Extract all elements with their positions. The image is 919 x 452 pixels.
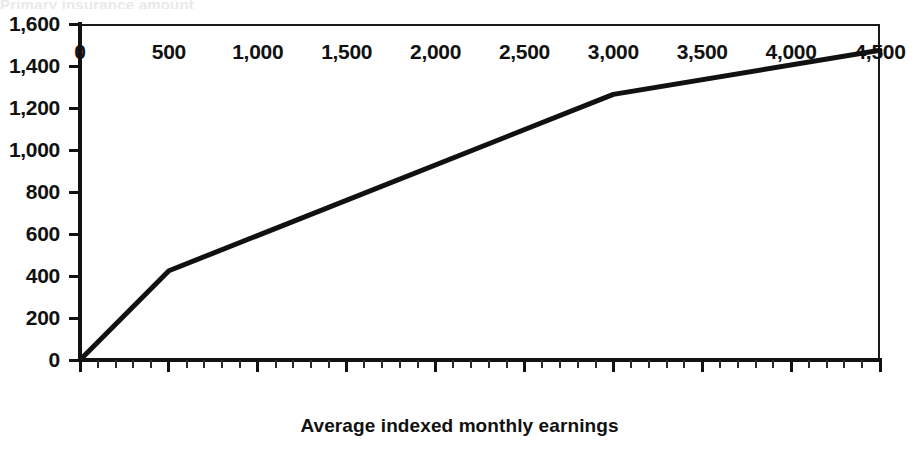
x-tick-minor [808,360,810,368]
x-tick-minor [239,360,241,368]
y-tick: 400 [69,275,80,278]
x-tick-minor [506,360,508,368]
x-tick-minor [132,360,134,368]
x-tick-minor [417,360,419,368]
x-tick-minor [292,360,294,368]
x-tick-minor [541,360,543,368]
x-tick-major [879,360,882,372]
x-tick-minor [666,360,668,368]
x-tick-minor [115,360,117,368]
y-tick-label: 1,200 [9,96,60,120]
y-tick-label: 800 [26,180,60,204]
x-tick-minor [452,360,454,368]
x-tick-minor [275,360,277,368]
x-tick-minor [683,360,685,368]
y-tick: 600 [69,233,80,236]
x-tick-minor [470,360,472,368]
x-tick-major [612,360,615,372]
y-tick-label: 0 [49,348,60,372]
x-tick-major [701,360,704,372]
x-tick-minor [150,360,152,368]
x-tick-minor [399,360,401,368]
x-tick-minor [559,360,561,368]
x-tick-major [790,360,793,372]
x-tick-minor [203,360,205,368]
x-tick-minor [719,360,721,368]
chart-figure: Primary insurance amount 02004006008001,… [0,0,919,452]
x-tick-minor [755,360,757,368]
y-tick-label: 200 [26,306,60,330]
y-tick: 1,000 [69,149,80,152]
x-tick-minor [737,360,739,368]
x-tick-minor [772,360,774,368]
clipped-title-remnant: Primary insurance amount [0,0,919,9]
x-tick-minor [488,360,490,368]
x-tick-major [345,360,348,372]
y-tick: 1,200 [69,107,80,110]
y-tick-label: 1,600 [9,12,60,36]
x-tick-minor [186,360,188,368]
x-tick-minor [577,360,579,368]
x-tick-minor [595,360,597,368]
x-tick-minor [363,360,365,368]
x-tick-minor [648,360,650,368]
x-tick-minor [826,360,828,368]
y-tick-label: 1,000 [9,138,60,162]
x-tick-minor [97,360,99,368]
x-tick-major [523,360,526,372]
x-tick-minor [381,360,383,368]
y-tick: 1,600 [69,23,80,26]
y-tick: 1,400 [69,65,80,68]
x-tick-minor [630,360,632,368]
x-tick-minor [221,360,223,368]
x-tick-major [167,360,170,372]
plot-area: 02004006008001,0001,2001,4001,600 05001,… [80,24,880,360]
series-line-monthly-benefit [80,24,880,360]
x-tick-minor [310,360,312,368]
y-tick-label: 400 [26,264,60,288]
y-tick-label: 600 [26,222,60,246]
y-tick: 200 [69,317,80,320]
x-tick-major [434,360,437,372]
y-tick-label: 1,400 [9,54,60,78]
x-tick-major [256,360,259,372]
x-tick-minor [843,360,845,368]
x-tick-minor [328,360,330,368]
x-axis-title: Average indexed monthly earnings [0,415,919,437]
x-tick-minor [861,360,863,368]
y-tick: 800 [69,191,80,194]
